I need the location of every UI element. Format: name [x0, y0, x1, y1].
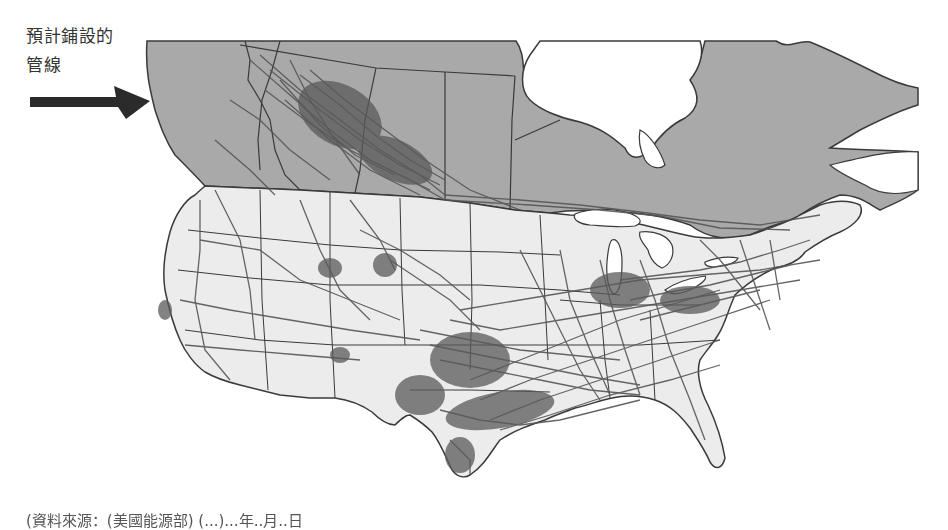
source-caption: (資料來源：(美國能源部) (...)...年..月..日 [26, 509, 303, 530]
right-arrow-icon [28, 86, 152, 120]
annotation-line-1: 預計鋪設的 [26, 22, 114, 51]
annotation-line-2: 管線 [26, 51, 114, 80]
planned-pipeline-annotation: 預計鋪設的 管線 [26, 22, 114, 80]
